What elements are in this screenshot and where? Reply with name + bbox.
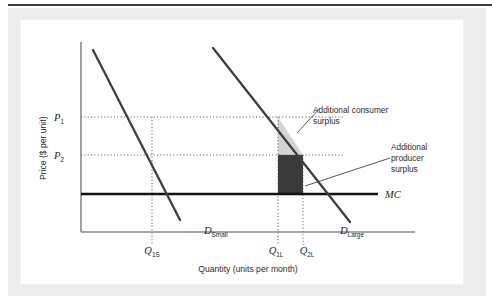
producer-surplus-rectangle	[278, 155, 303, 194]
economics-supply-demand-chart: Price ($ per unit) Quantity (units per m…	[0, 0, 492, 300]
price-label-p2: P2	[53, 150, 64, 163]
leader-line-producer-surplus	[305, 158, 390, 186]
annotation-producer-surplus-line1: Additional	[391, 142, 428, 152]
annotation-producer-surplus-line3: surplus	[391, 164, 418, 174]
quantity-label-q1s: Q1S	[144, 245, 159, 258]
demand-curve-large	[213, 48, 350, 222]
annotation-consumer-surplus-line2: surplus	[313, 116, 340, 126]
quantity-label-q2l: Q2L	[300, 245, 315, 258]
curve-label-mc: MC	[384, 189, 402, 200]
curve-label-d-large: DLarge	[339, 225, 364, 239]
y-axis-label: Price ($ per unit)	[38, 116, 48, 180]
annotation-producer-surplus-line2: producer	[391, 153, 424, 163]
curve-label-d-small: DSmall	[203, 225, 228, 238]
quantity-label-q1l: Q1L	[269, 245, 284, 258]
x-axis-label: Quantity (units per month)	[198, 264, 297, 274]
annotation-consumer-surplus-line1: Additional consumer	[313, 105, 388, 115]
figure-container: Price ($ per unit) Quantity (units per m…	[0, 0, 492, 300]
price-label-p1: P1	[53, 112, 64, 125]
